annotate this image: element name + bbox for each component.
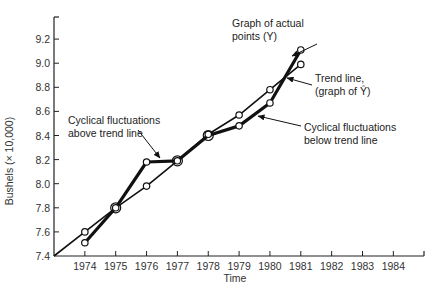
x-tick-label: 1978 <box>197 260 221 272</box>
arrow-actual <box>292 44 317 56</box>
y-tick-label: 7.6 <box>35 226 50 238</box>
arrow-above <box>138 130 160 158</box>
x-tick-label: 1979 <box>227 260 251 272</box>
annotation-trend-line2: (graph of Ŷ) <box>315 85 370 97</box>
annotation-trend-line1: Trend line, <box>315 72 364 84</box>
x-tick-label: 1981 <box>289 260 313 272</box>
x-axis-title: Time <box>224 272 247 284</box>
x-tick-label: 1976 <box>135 260 159 272</box>
trend-point-marker <box>267 87 273 93</box>
y-tick-label: 8.6 <box>35 105 50 117</box>
trend-point-marker <box>113 205 119 211</box>
actual-point-marker <box>143 159 149 165</box>
y-tick-label: 9.2 <box>35 33 50 45</box>
y-tick-label: 8.4 <box>35 130 50 142</box>
actual-points-series <box>85 50 301 243</box>
annotation-below-line1: Cyclical fluctuations <box>304 121 396 133</box>
actual-point-marker <box>82 240 88 246</box>
x-tick-label: 1983 <box>351 260 375 272</box>
x-tick-label: 1974 <box>73 260 97 272</box>
annotation-above-line1: Cyclical fluctuations <box>68 114 160 126</box>
annotation-actual-line2: points (Y) <box>232 30 277 42</box>
y-tick-label: 8.8 <box>35 81 50 93</box>
arrow-trend <box>287 78 312 85</box>
x-tick-label: 1975 <box>104 260 128 272</box>
annotation-above-line2: above trend line <box>68 127 143 139</box>
annotations: Graph of actual points (Y) Trend line, (… <box>68 17 396 158</box>
y-axis-title: Bushels (× 10,000) <box>3 117 15 205</box>
actual-point-marker <box>236 123 242 129</box>
x-tick-label: 1977 <box>166 260 190 272</box>
y-tick-label: 9.0 <box>35 57 50 69</box>
trend-point-marker <box>205 131 211 137</box>
arrow-below <box>258 116 301 126</box>
y-tick-label: 8.0 <box>35 178 50 190</box>
actual-point-marker <box>267 100 273 106</box>
y-tick-label: 7.8 <box>35 202 50 214</box>
y-tick-label: 7.4 <box>35 250 50 262</box>
actual-line <box>85 50 301 243</box>
trend-point-marker <box>174 158 180 164</box>
x-tick-label: 1980 <box>258 260 282 272</box>
trend-point-marker <box>143 183 149 189</box>
trend-point-marker <box>236 112 242 118</box>
y-tick-label: 8.2 <box>35 154 50 166</box>
trend-point-marker <box>298 61 304 67</box>
x-tick-label: 1982 <box>320 260 344 272</box>
annotation-below-line2: below trend line <box>304 134 378 146</box>
x-tick-label: 1984 <box>382 260 406 272</box>
annotation-actual-line1: Graph of actual <box>232 17 304 29</box>
trend-point-marker <box>82 229 88 235</box>
time-series-chart: 7.47.67.88.08.28.48.68.89.09.21974197519… <box>0 0 436 299</box>
